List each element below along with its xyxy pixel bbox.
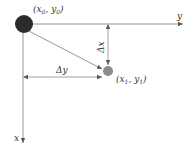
y-axis-label: y xyxy=(176,11,183,21)
target-point xyxy=(103,66,113,76)
origin-label: (x0, y0) xyxy=(33,4,64,15)
x-axis-label: x xyxy=(14,133,19,143)
displacement-vector xyxy=(27,30,102,69)
delta-x-label: Δx xyxy=(96,41,106,54)
displacement-diagram: y x Δx Δy (x0, y0) (x1, y1) xyxy=(0,0,195,151)
delta-y-label: Δy xyxy=(55,65,68,75)
target-label: (x1, y1) xyxy=(116,74,147,85)
origin-point xyxy=(15,15,33,33)
